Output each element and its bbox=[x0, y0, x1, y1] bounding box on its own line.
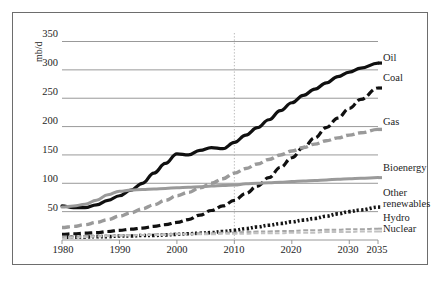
series-label-coal: Coal bbox=[383, 72, 403, 84]
chart-svg bbox=[0, 0, 442, 284]
x-tick-label-2010: 2010 bbox=[215, 244, 253, 255]
series-label-gas: Gas bbox=[383, 116, 399, 128]
x-tick-label-2000: 2000 bbox=[158, 244, 196, 255]
series-label-bioenergy: Bioenergy bbox=[383, 162, 427, 174]
series-label-oil: Oil bbox=[383, 52, 396, 64]
series-label-stubs bbox=[378, 63, 382, 231]
y-tick-label-350: 350 bbox=[28, 28, 58, 39]
x-tick-label-1980: 1980 bbox=[44, 244, 82, 255]
series-label-other-renewables-line1: Other bbox=[383, 187, 407, 199]
chart-page: mb/d 350 300 250 200 150 100 50 1980 199… bbox=[0, 0, 442, 284]
y-tick-label-250: 250 bbox=[28, 86, 58, 97]
series-line-bioenergy bbox=[62, 178, 378, 207]
x-tick-label-2035: 2035 bbox=[358, 244, 396, 255]
series-label-other-renewables-line2: renewables bbox=[383, 198, 430, 210]
plot-area bbox=[0, 0, 442, 284]
x-tick-label-2020: 2020 bbox=[272, 244, 310, 255]
y-tick-label-300: 300 bbox=[28, 57, 58, 68]
y-tick-label-100: 100 bbox=[28, 173, 58, 184]
series-line-coal bbox=[62, 88, 378, 234]
series-label-nuclear: Nuclear bbox=[383, 223, 416, 235]
series-label-hydro: Hydro bbox=[383, 212, 410, 224]
y-tick-label-200: 200 bbox=[28, 115, 58, 126]
x-tick-label-1990: 1990 bbox=[101, 244, 139, 255]
y-tick-label-150: 150 bbox=[28, 144, 58, 155]
y-tick-label-50: 50 bbox=[28, 202, 58, 213]
